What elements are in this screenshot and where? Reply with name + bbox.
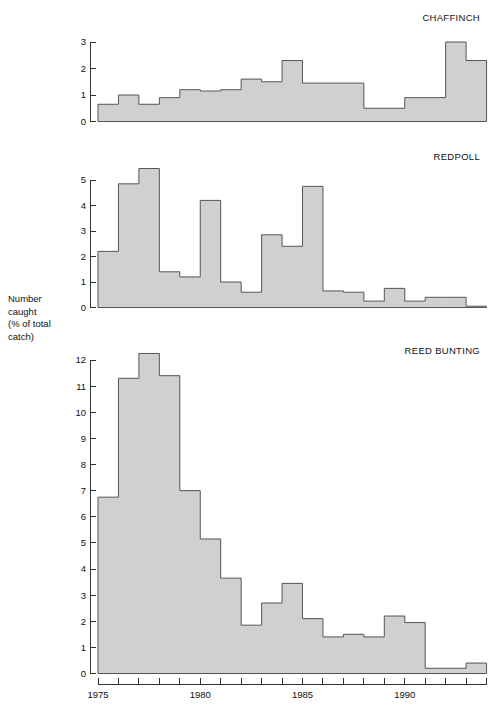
x-axis-tick-label: 1975 xyxy=(87,689,108,700)
y-axis-tick-label: 11 xyxy=(76,381,86,392)
y-axis-tick-label: 10 xyxy=(75,407,86,418)
step-histogram-area xyxy=(98,42,487,122)
step-histogram-area xyxy=(98,169,487,308)
y-axis-tick-label: 5 xyxy=(81,174,86,185)
figure-panel-group: CHAFFINCH REDPOLL REED BUNTING Number ca… xyxy=(0,0,490,711)
y-axis-tick-label: 4 xyxy=(81,563,86,574)
y-axis-tick-label: 3 xyxy=(81,36,86,47)
panel-title-redpoll: REDPOLL xyxy=(434,151,480,162)
y-axis-label-line-2: caught xyxy=(8,306,78,319)
y-axis-tick-label: 3 xyxy=(81,590,86,601)
y-axis-tick-label: 2 xyxy=(81,616,86,627)
x-axis-tick-label: 1985 xyxy=(292,689,313,700)
y-axis-tick-label: 4 xyxy=(81,200,86,211)
chart-chaffinch: 0123 xyxy=(81,36,487,127)
y-axis-tick-label: 8 xyxy=(81,459,86,470)
panel-title-reed-bunting: REED BUNTING xyxy=(405,345,480,356)
y-axis-tick-label: 3 xyxy=(81,225,86,236)
y-axis-label-line-4: catch) xyxy=(8,331,78,344)
y-axis-tick-label: 9 xyxy=(81,433,86,444)
panel-title-chaffinch: CHAFFINCH xyxy=(422,12,480,23)
y-axis-tick-label: 6 xyxy=(81,511,86,522)
y-axis-tick-label: 1 xyxy=(81,276,86,287)
y-axis-label: Number caught (% of total catch) xyxy=(8,293,78,343)
x-axis-tick-label: 1990 xyxy=(394,689,415,700)
y-axis-tick-label: 0 xyxy=(81,302,86,313)
y-axis-label-line-1: Number xyxy=(8,293,78,306)
x-axis-tick-label: 1980 xyxy=(190,689,211,700)
y-axis-tick-label: 2 xyxy=(81,63,86,74)
chart-redpoll: 012345 xyxy=(81,169,487,313)
y-axis-tick-label: 12 xyxy=(75,354,86,365)
y-axis-tick-label: 0 xyxy=(81,668,86,679)
y-axis-tick-label: 5 xyxy=(81,537,86,548)
y-axis-tick-label: 2 xyxy=(81,251,86,262)
y-axis-tick-label: 7 xyxy=(81,485,86,496)
y-axis-tick-label: 1 xyxy=(81,89,86,100)
y-axis-label-line-3: (% of total xyxy=(8,318,78,331)
y-axis-tick-label: 1 xyxy=(81,642,86,653)
chart-reed-bunting: 01234567891011121975198019851990 xyxy=(75,353,486,700)
step-histogram-area xyxy=(98,353,487,673)
y-axis-tick-label: 0 xyxy=(81,116,86,127)
